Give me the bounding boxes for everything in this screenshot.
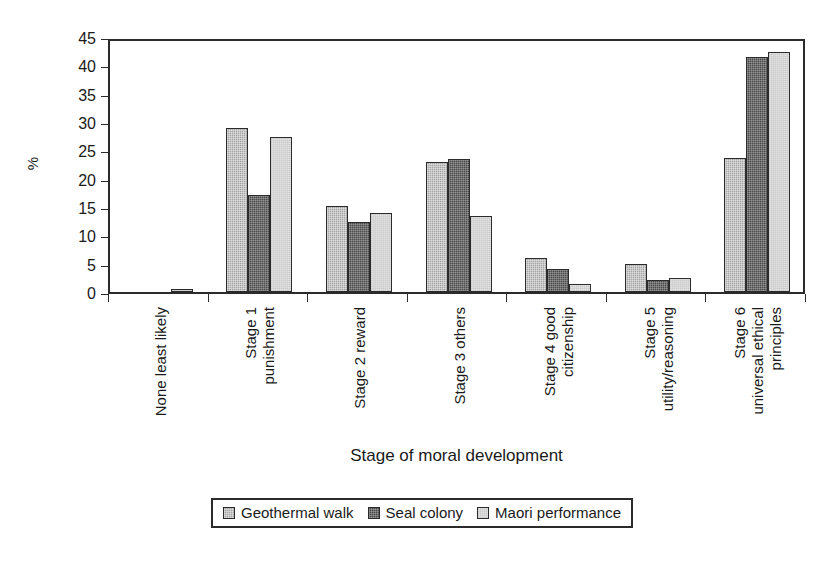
bar	[625, 264, 647, 292]
y-axis-tick-label: 0	[87, 284, 96, 304]
bar	[525, 258, 547, 292]
y-axis-title: %	[24, 144, 41, 184]
legend-swatch-icon	[223, 507, 235, 519]
bar	[270, 137, 292, 292]
x-axis-category-label: None least likely	[153, 307, 169, 439]
y-axis-tick-label: 25	[78, 142, 96, 162]
x-axis-category-label: Stage 6	[732, 307, 748, 439]
bar-group	[724, 41, 790, 292]
x-axis-category-label: Stage 1	[243, 307, 259, 439]
y-axis-tick-mark	[101, 294, 108, 295]
y-axis-tick-label: 10	[78, 227, 96, 247]
bar-group	[127, 41, 193, 292]
y-axis-tick-mark	[101, 266, 108, 267]
bar-group	[625, 41, 691, 292]
plot-area	[110, 41, 803, 292]
y-axis-tick: 15	[40, 209, 108, 210]
y-axis-tick-label: 40	[78, 57, 96, 77]
bar-chart: % 051015202530354045 None least likelySt…	[0, 0, 835, 567]
bar	[226, 128, 248, 292]
bar	[669, 278, 691, 292]
x-axis-tick-mark	[705, 294, 706, 302]
y-axis-tick-label: 5	[87, 256, 96, 276]
legend-label: Seal colony	[386, 504, 464, 521]
bar	[426, 162, 448, 292]
y-axis-tick-label: 45	[78, 29, 96, 49]
x-axis-category-label: universal ethical	[750, 307, 766, 439]
y-axis-tick-mark	[101, 237, 108, 238]
x-axis-tick-mark	[805, 294, 806, 302]
bar	[171, 289, 193, 292]
legend-item[interactable]: Maori performance	[477, 504, 621, 521]
y-axis-tick-mark	[101, 209, 108, 210]
bar	[547, 269, 569, 292]
x-axis-category-label: Stage 2 reward	[352, 307, 368, 439]
legend-label: Maori performance	[495, 504, 621, 521]
legend-swatch-icon	[477, 507, 489, 519]
y-axis-tick-mark	[101, 124, 108, 125]
bar	[248, 195, 270, 292]
y-axis-tick: 30	[40, 124, 108, 125]
y-axis-tick: 0	[40, 294, 108, 295]
x-axis-category-label: Stage 4 good	[542, 307, 558, 439]
x-axis-category-label: punishment	[261, 307, 277, 439]
bar-group	[525, 41, 591, 292]
y-axis-tick: 10	[40, 237, 108, 238]
bar-group	[426, 41, 492, 292]
y-axis-tick-label: 20	[78, 171, 96, 191]
x-axis-tick-mark	[208, 294, 209, 302]
x-axis-category-label: principles	[768, 307, 784, 439]
bar	[326, 206, 348, 292]
bar	[448, 159, 470, 292]
bar-group	[326, 41, 392, 292]
bar	[768, 52, 790, 292]
y-axis-tick-label: 30	[78, 114, 96, 134]
x-axis-tick-mark	[108, 294, 109, 302]
x-axis-title: Stage of moral development	[108, 446, 805, 466]
x-axis-category-label: utility/reasoning	[660, 307, 676, 439]
y-axis-tick-mark	[101, 181, 108, 182]
y-axis-tick-mark	[101, 67, 108, 68]
bar	[647, 280, 669, 292]
x-axis-tick-mark	[506, 294, 507, 302]
y-axis-tick-mark	[101, 96, 108, 97]
y-axis-tick-mark	[101, 152, 108, 153]
bar-group	[226, 41, 292, 292]
x-axis-category-label: citizenship	[560, 307, 576, 439]
plot-frame	[108, 39, 805, 294]
y-axis-tick-label: 15	[78, 199, 96, 219]
y-axis-tick: 40	[40, 67, 108, 68]
y-axis-tick: 20	[40, 181, 108, 182]
chart-legend: Geothermal walkSeal colonyMaori performa…	[211, 498, 633, 528]
y-axis-tick-label: 35	[78, 86, 96, 106]
legend-swatch-icon	[368, 507, 380, 519]
x-axis-tick-mark	[407, 294, 408, 302]
bar	[470, 216, 492, 293]
legend-item[interactable]: Geothermal walk	[223, 504, 354, 521]
bar	[569, 284, 591, 292]
y-axis-tick: 25	[40, 152, 108, 153]
y-axis-tick: 35	[40, 96, 108, 97]
bar	[348, 222, 370, 292]
x-axis-tick-mark	[606, 294, 607, 302]
legend-item[interactable]: Seal colony	[368, 504, 464, 521]
y-axis-tick: 5	[40, 266, 108, 267]
bar	[724, 158, 746, 292]
y-axis-tick-mark	[101, 39, 108, 40]
bar	[370, 213, 392, 292]
x-axis-category-label: Stage 3 others	[452, 307, 468, 439]
bar	[746, 57, 768, 292]
legend-label: Geothermal walk	[241, 504, 354, 521]
x-axis-tick-mark	[307, 294, 308, 302]
x-axis-category-label: Stage 5	[642, 307, 658, 439]
y-axis-tick: 45	[40, 39, 108, 40]
